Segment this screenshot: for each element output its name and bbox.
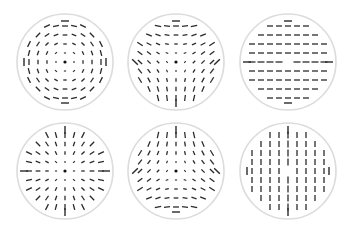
orientation-segment: [183, 44, 187, 45]
orientation-segment: [185, 87, 186, 92]
panel-uniform-horizontal: [240, 14, 336, 110]
orientation-segment: [167, 87, 168, 92]
orientation-segment: [183, 198, 188, 199]
orientation-segment: [165, 198, 170, 199]
panel-radial-field: [17, 123, 113, 219]
orientation-segment: [165, 44, 169, 45]
orientation-segment: [164, 26, 170, 27]
orientation-segment: [167, 151, 168, 155]
orientation-field-figure: [0, 0, 353, 230]
orientation-segment: [182, 26, 188, 27]
orientation-segment: [185, 132, 186, 138]
orientation-segment: [165, 189, 169, 190]
orientation-segment: [167, 78, 168, 82]
orientation-segment: [182, 207, 188, 208]
panel-half-defect-down: [128, 14, 224, 110]
orientation-segment: [165, 35, 170, 36]
panel-uniform-vertical: [240, 123, 336, 219]
orientation-segment: [183, 189, 187, 190]
orientation-segment: [167, 142, 168, 147]
center-point: [174, 60, 177, 63]
orientation-segment: [185, 142, 186, 147]
center-point: [63, 60, 66, 63]
panel-rotational-field: [17, 14, 113, 110]
orientation-segment: [185, 78, 186, 82]
orientation-segment: [185, 151, 186, 155]
center-point: [174, 169, 177, 172]
orientation-segment: [183, 35, 188, 36]
center-point: [63, 169, 66, 172]
orientation-segment: [164, 207, 170, 208]
orientation-segment: [167, 95, 168, 101]
orientation-segment: [185, 95, 186, 101]
panel-half-defect-up: [128, 123, 224, 219]
orientation-segment: [167, 132, 168, 138]
